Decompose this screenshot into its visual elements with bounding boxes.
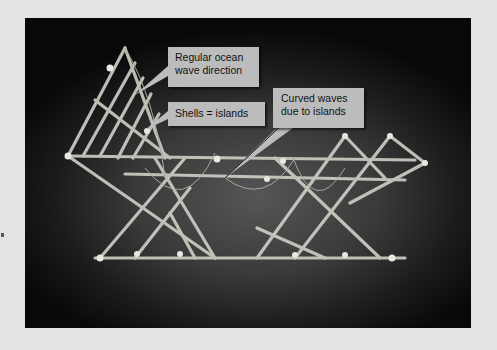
- callout-line: Regular ocean: [175, 51, 253, 64]
- callout-curved-waves: Curved waves due to islands: [273, 88, 364, 128]
- callout-line: Shells = islands: [175, 106, 259, 121]
- callout-shells-islands: Shells = islands: [168, 102, 265, 126]
- callout-line: wave direction: [175, 64, 253, 77]
- callout-line: Curved waves: [281, 92, 358, 105]
- callout-regular-wave-direction: Regular ocean wave direction: [168, 47, 259, 87]
- stick-chart-photo: Regular ocean wave direction Shells = is…: [25, 18, 471, 328]
- callout-line: due to islands: [281, 105, 358, 118]
- scan-speck: [1, 233, 4, 237]
